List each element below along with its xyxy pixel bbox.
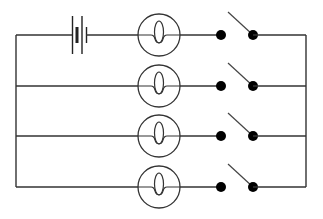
lamp-icon <box>138 115 180 157</box>
battery-icon <box>73 16 87 54</box>
branch-row-4 <box>16 164 306 208</box>
circuit-diagram <box>0 0 323 219</box>
switch-icon[interactable] <box>216 12 258 40</box>
branch-row-2 <box>16 63 306 107</box>
switch-icon[interactable] <box>216 63 258 91</box>
lamp-icon <box>138 65 180 107</box>
branch-row-3 <box>16 113 306 157</box>
switch-icon[interactable] <box>216 113 258 141</box>
lamp-icon <box>138 14 180 56</box>
switch-icon[interactable] <box>216 164 258 192</box>
branch-row-1 <box>16 12 306 56</box>
lamp-icon <box>138 166 180 208</box>
